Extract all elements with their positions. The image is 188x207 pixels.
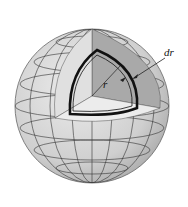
- label-dr: dr: [164, 46, 174, 58]
- sphere-diagram: [0, 0, 188, 207]
- label-r: r: [103, 78, 107, 90]
